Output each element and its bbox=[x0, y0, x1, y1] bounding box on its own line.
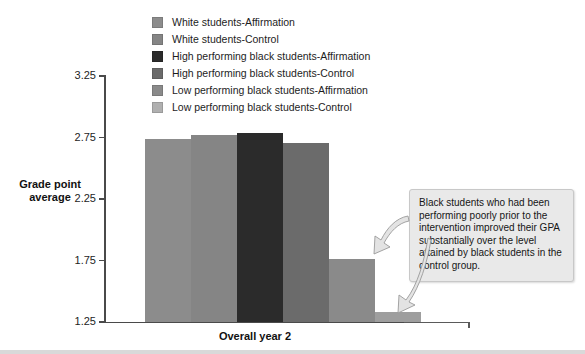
legend-item-label: High performing black students-Affirmati… bbox=[172, 51, 370, 62]
bar-chart: White students-Affirmation White student… bbox=[0, 0, 585, 354]
bar-high-black-control bbox=[283, 143, 329, 322]
y-tick bbox=[99, 75, 105, 77]
legend-item-label: White students-Affirmation bbox=[172, 17, 295, 28]
y-tick-label: 3.25 bbox=[62, 69, 96, 81]
y-tick bbox=[99, 260, 105, 262]
y-tick bbox=[99, 137, 105, 139]
bar-low-black-control bbox=[375, 312, 421, 322]
y-tick-label: 2.25 bbox=[62, 192, 96, 204]
bar-white-control bbox=[191, 135, 237, 321]
y-tick bbox=[99, 321, 105, 323]
y-tick-label: 1.25 bbox=[62, 315, 96, 327]
x-axis-line-extension bbox=[404, 322, 469, 324]
legend-item-label: White students-Control bbox=[172, 34, 279, 45]
legend-item: High performing black students-Affirmati… bbox=[152, 48, 370, 64]
x-axis-title: Overall year 2 bbox=[180, 330, 330, 342]
legend-swatch-icon bbox=[152, 17, 163, 28]
x-axis-line bbox=[104, 322, 404, 324]
plot-area: 3.25 2.75 2.25 1.75 1.25 bbox=[104, 75, 404, 323]
page-bottom-edge bbox=[0, 350, 585, 354]
legend-item: White students-Control bbox=[152, 31, 370, 47]
legend-item: White students-Affirmation bbox=[152, 14, 370, 30]
y-tick-label: 1.75 bbox=[62, 254, 96, 266]
y-tick bbox=[99, 198, 105, 200]
annotation-callout: Black students who had been performing p… bbox=[409, 189, 574, 282]
legend-swatch-icon bbox=[152, 34, 163, 45]
y-tick-label: 2.75 bbox=[62, 131, 96, 143]
bar-low-black-affirmation bbox=[329, 259, 375, 322]
bar-white-affirmation bbox=[145, 139, 191, 321]
legend-swatch-icon bbox=[152, 51, 163, 62]
x-axis-end-tick bbox=[468, 322, 470, 328]
bar-high-black-affirmation bbox=[237, 133, 283, 322]
